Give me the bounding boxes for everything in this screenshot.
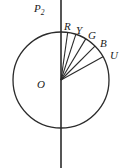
ray-label-r: R bbox=[64, 21, 71, 32]
diagram-canvas bbox=[0, 0, 124, 168]
ray-label-y: Y bbox=[76, 25, 82, 36]
center-label-o: O bbox=[37, 79, 45, 90]
ray-label-b: B bbox=[100, 38, 107, 49]
figure-container: P2 O R Y G B U bbox=[0, 0, 124, 168]
ray-r bbox=[61, 32, 68, 80]
axis-label-p2-subscript: 2 bbox=[41, 8, 45, 17]
ray-label-u: U bbox=[110, 50, 118, 61]
ray-label-g: G bbox=[88, 30, 96, 41]
axis-label-p2: P2 bbox=[34, 3, 44, 17]
axis-label-p2-letter: P bbox=[34, 2, 41, 14]
